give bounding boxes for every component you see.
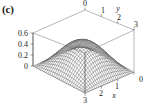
x-tick-label-1: 1 xyxy=(115,82,119,91)
z-tick-label-1: 0.4 xyxy=(18,40,28,49)
z-tick-label-2: 0.2 xyxy=(18,51,28,60)
z-axis-group: 0.6 0.4 0.2 0 xyxy=(18,29,33,71)
x-tick-label-2: 2 xyxy=(99,89,103,98)
surface-plot: 0.6 0.4 0.2 0 0 1 2 3 y 3 2 1 0 x xyxy=(0,0,147,107)
y-tick-label-1: 1 xyxy=(101,6,105,15)
x-tick-label-3: 3 xyxy=(83,96,87,105)
y-tick-label-2: 2 xyxy=(117,13,121,22)
x-axis-title: x xyxy=(111,91,116,100)
z-tick-label-3: 0 xyxy=(24,62,28,71)
figure-panel-c: (c) 0.6 0.4 0.2 0 0 1 xyxy=(0,0,147,107)
y-tick-label-3: 3 xyxy=(134,20,138,29)
y-tick-label-0: 0 xyxy=(83,0,87,8)
x-tick-label-0: 0 xyxy=(139,75,143,84)
z-tick-label-0: 0.6 xyxy=(18,29,28,38)
y-axis-group: 0 1 2 3 y xyxy=(83,0,138,30)
y-axis-title: y xyxy=(115,4,120,13)
